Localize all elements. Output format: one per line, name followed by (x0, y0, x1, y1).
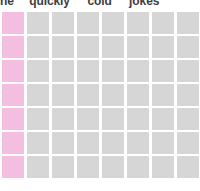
grid-cell[interactable] (177, 36, 199, 58)
grid-cell[interactable] (152, 60, 174, 82)
grid-cell[interactable] (52, 84, 74, 106)
grid-cell[interactable] (102, 84, 124, 106)
grid-cell[interactable] (127, 36, 149, 58)
grid-cell[interactable] (52, 156, 74, 178)
grid-cell[interactable] (77, 12, 99, 34)
grid-cell[interactable] (27, 36, 49, 58)
grid-cell[interactable] (102, 12, 124, 34)
grid-cell[interactable] (152, 156, 174, 178)
grid-cell[interactable] (177, 156, 199, 178)
grid-cell[interactable] (127, 108, 149, 130)
grid-cell[interactable] (102, 108, 124, 130)
grid-cell[interactable] (152, 84, 174, 106)
cell-grid (2, 12, 200, 178)
grid-cell[interactable] (77, 60, 99, 82)
grid-cell[interactable] (27, 12, 49, 34)
grid-cell[interactable] (52, 36, 74, 58)
grid-cell[interactable] (152, 132, 174, 154)
grid-cell[interactable] (2, 60, 24, 82)
grid-cell[interactable] (77, 36, 99, 58)
grid-cell[interactable] (102, 156, 124, 178)
grid-cell[interactable] (102, 36, 124, 58)
grid-cell[interactable] (52, 132, 74, 154)
grid-cell[interactable] (177, 12, 199, 34)
grid-cell[interactable] (77, 108, 99, 130)
header-word-0: he (0, 0, 14, 9)
grid-cell[interactable] (2, 36, 24, 58)
grid-cell[interactable] (177, 84, 199, 106)
header-word-3: jokes (129, 0, 159, 9)
grid-cell[interactable] (27, 84, 49, 106)
grid-cell[interactable] (52, 108, 74, 130)
header-word-1: quickly (29, 0, 70, 9)
grid-cell[interactable] (127, 12, 149, 34)
header-word-strip: he quickly cold jokes (0, 0, 200, 9)
grid-cell[interactable] (102, 132, 124, 154)
grid-cell[interactable] (127, 84, 149, 106)
grid-cell[interactable] (152, 108, 174, 130)
grid-cell[interactable] (27, 60, 49, 82)
grid-cell[interactable] (77, 156, 99, 178)
grid-cell[interactable] (2, 108, 24, 130)
grid-cell[interactable] (152, 36, 174, 58)
grid-cell[interactable] (102, 60, 124, 82)
grid-cell[interactable] (2, 84, 24, 106)
grid-cell[interactable] (152, 12, 174, 34)
grid-cell[interactable] (127, 60, 149, 82)
grid-cell[interactable] (77, 84, 99, 106)
grid-cell[interactable] (127, 156, 149, 178)
grid-cell[interactable] (2, 132, 24, 154)
grid-cell[interactable] (177, 108, 199, 130)
grid-cell[interactable] (27, 108, 49, 130)
header-word-2: cold (87, 0, 111, 9)
grid-cell[interactable] (27, 156, 49, 178)
grid-cell[interactable] (52, 60, 74, 82)
grid-cell[interactable] (177, 132, 199, 154)
grid-cell[interactable] (177, 60, 199, 82)
grid-cell[interactable] (2, 156, 24, 178)
grid-cell[interactable] (27, 132, 49, 154)
grid-cell[interactable] (127, 132, 149, 154)
grid-cell[interactable] (77, 132, 99, 154)
grid-cell[interactable] (52, 12, 74, 34)
app-root: he quickly cold jokes (0, 0, 200, 191)
grid-cell[interactable] (2, 12, 24, 34)
